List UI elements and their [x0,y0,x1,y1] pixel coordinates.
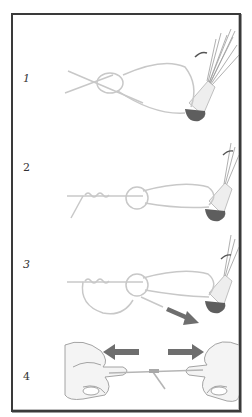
step-2-illustration [67,143,239,221]
step-1-illustration [65,29,239,121]
pull-arrow-icon [166,307,199,325]
step-number-1: 1 [23,72,30,85]
step-number-2: 2 [23,161,30,174]
step-number-3: 3 [23,258,30,271]
step-4-illustration [65,342,239,402]
lure-feather-icon [207,29,239,85]
step-3-illustration [67,235,239,325]
knot-illustration [13,15,239,410]
diagram-frame: 1 2 3 4 [11,13,241,412]
arrow-right-icon [168,344,204,360]
step-number-4: 4 [23,370,30,383]
arrow-left-icon [103,344,139,360]
